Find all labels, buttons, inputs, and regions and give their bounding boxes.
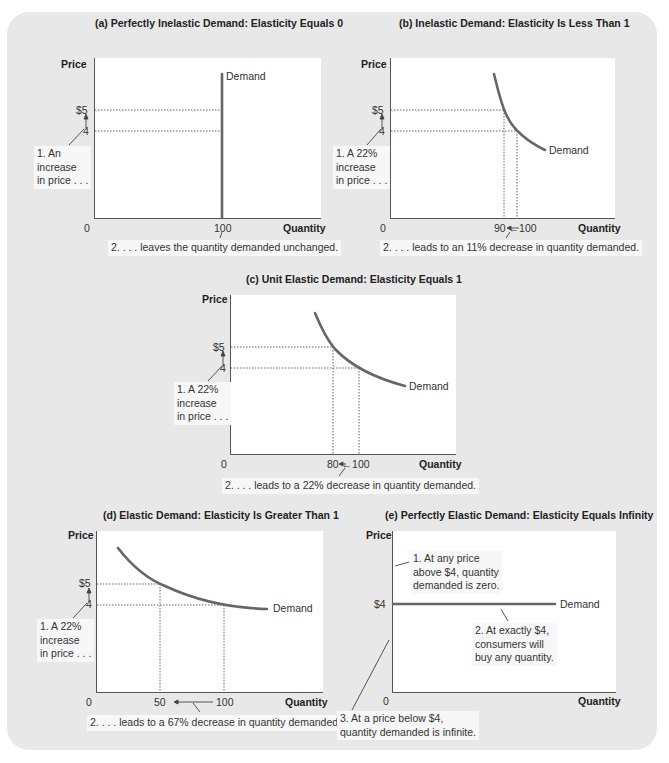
panel-a-ytick-4: 4 [83,125,89,137]
panel-d-xtick-100: 100 [216,696,234,708]
panel-b-ytick-4: 4 [379,125,385,137]
panel-a-note-2: 2. . . . leaves the quantity demanded un… [108,240,341,256]
panel-c-origin: 0 [221,458,227,470]
panel-d-ytick-4: 4 [86,598,92,610]
panel-b-title: (b) Inelastic Demand: Elasticity Is Less… [399,17,630,29]
panel-c-plot-area [230,295,456,455]
panel-d-title: (d) Elastic Demand: Elasticity Is Greate… [103,509,339,521]
panel-b-note-1: 1. A 22% increase in price . . . [333,146,390,189]
panel-b-ytick-5: $5 [372,104,384,116]
panel-a-plot-area [94,58,321,219]
panel-e-ytick-4: $4 [374,598,386,610]
panel-b-note-2: 2. . . . leads to an 11% decrease in qua… [380,240,642,256]
panel-a-note-1: 1. An increase in price . . . [34,146,91,189]
panel-b-xlabel: Quantity [578,222,621,234]
panel-e-demand-label: Demand [560,598,600,610]
panel-e-note-3: 3. At a price below $4, quantity demande… [337,711,479,740]
panel-c-note-2: 2. . . . leads to a 22% decrease in quan… [222,478,479,494]
panel-a-title: (a) Perfectly Inelastic Demand: Elastici… [95,17,343,29]
panel-d-ytick-5: $5 [79,577,91,589]
panel-a-demand-label: Demand [226,70,266,82]
panel-c-ytick-5: $5 [213,341,225,353]
panel-d-xlabel: Quantity [285,696,328,708]
panel-d-xtick-50: 50 [154,696,166,708]
panel-d-origin: 0 [86,696,92,708]
panel-e-note-2: 2. At exactly $4, consumers will buy any… [472,623,557,666]
panel-e-ylabel: Price [366,529,392,541]
panel-e-xlabel: Quantity [578,695,621,707]
panel-e-title: (e) Perfectly Elastic Demand: Elasticity… [385,509,653,521]
panel-b-xticks: 90 ←100 [494,222,537,234]
panel-a-ytick-5: $5 [76,104,88,116]
panel-d-ylabel: Price [68,529,94,541]
panel-d-note-2: 2. . . . leads to a 67% decrease in quan… [87,715,344,731]
panel-c-xlabel: Quantity [419,458,462,470]
panel-b-origin: 0 [380,222,386,234]
panel-b-demand-label: Demand [549,144,589,156]
panel-b-plot-area [390,58,615,219]
panel-d-note-1: 1. A 22% increase in price . . . [37,619,94,662]
panel-a-ylabel: Price [61,58,87,70]
panel-c-demand-label: Demand [409,380,449,392]
panel-c-ylabel: Price [202,293,228,305]
panel-a-origin: 0 [84,222,90,234]
panel-b-ylabel: Price [361,58,387,70]
panel-a-xtick-100: 100 [214,222,232,234]
panel-c-ytick-4: 4 [220,362,226,374]
panel-e-origin: 0 [383,695,389,707]
panel-d-demand-label: Demand [273,602,313,614]
panel-c-title: (c) Unit Elastic Demand: Elasticity Equa… [246,273,462,285]
panel-a-xlabel: Quantity [283,222,326,234]
panel-c-xticks: 80 ←100 [327,458,370,470]
panel-c-note-1: 1. A 22% increase in price . . . [174,382,231,425]
panel-e-note-1: 1. At any price above $4, quantity deman… [410,551,502,594]
